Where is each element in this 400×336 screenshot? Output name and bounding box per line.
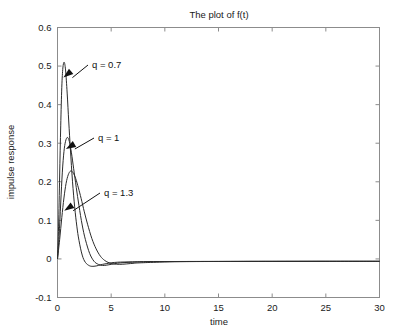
annotation-arrowhead	[64, 202, 74, 210]
annotation-leader-line	[75, 138, 94, 149]
x-tick-label: 15	[213, 302, 224, 313]
x-tick-label: 5	[109, 302, 114, 313]
annotation-label: q = 0.7	[92, 59, 121, 70]
y-tick-label: 0.5	[38, 60, 51, 71]
x-axis-label: time	[210, 316, 228, 327]
annotation-label: q = 1	[98, 132, 119, 143]
annotations-group: q = 0.7q = 1q = 1.3	[63, 59, 133, 211]
x-tick-label: 30	[374, 302, 385, 313]
y-tick-label: 0.6	[38, 22, 51, 33]
y-axis-tickmarks	[58, 66, 380, 259]
x-tick-label: 0	[55, 302, 60, 313]
chart-title: The plot of f(t)	[189, 9, 248, 20]
x-axis-tick-labels: 051015202530	[55, 302, 385, 313]
x-tick-label: 10	[160, 302, 171, 313]
y-tick-label: 0.4	[38, 99, 51, 110]
y-axis-tick-labels: -0.100.10.20.30.40.50.6	[35, 22, 51, 303]
y-axis-label: impulse response	[5, 125, 16, 199]
annotation-label: q = 1.3	[104, 187, 133, 198]
y-tick-label: 0.1	[38, 215, 51, 226]
x-tick-label: 25	[321, 302, 332, 313]
plot-canvas: The plot of f(t) 051015202530 -0.100.10.…	[0, 0, 400, 336]
x-tick-label: 20	[267, 302, 278, 313]
series-line	[58, 137, 380, 265]
chart-figure: The plot of f(t) 051015202530 -0.100.10.…	[0, 0, 400, 336]
annotation-leader-line	[72, 65, 88, 78]
y-tick-label: -0.1	[35, 292, 51, 303]
series-line	[58, 171, 380, 264]
y-tick-label: 0.2	[38, 176, 51, 187]
annotation-arrowhead	[66, 141, 76, 149]
annotation-arrowhead	[63, 69, 73, 78]
y-tick-label: 0.3	[38, 138, 51, 149]
data-series-group	[58, 62, 380, 266]
y-tick-label: 0	[46, 253, 51, 264]
series-line	[58, 62, 380, 266]
x-axis-tickmarks	[111, 28, 326, 298]
